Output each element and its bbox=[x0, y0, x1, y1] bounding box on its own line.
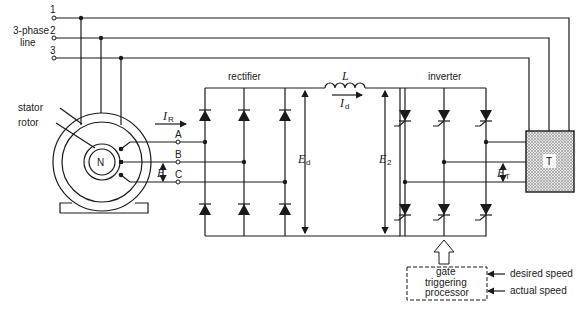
terminal-a-label: A bbox=[175, 129, 182, 140]
transformer-box: T bbox=[526, 131, 574, 192]
inductor-label: L bbox=[341, 69, 349, 83]
inverter-bridge: inverter E T bbox=[394, 71, 526, 236]
processor-label-3: processor bbox=[425, 287, 470, 298]
terminal-b-label: B bbox=[175, 149, 182, 160]
drive-diagram: 1 2 3 3-phase line N stator rotor bbox=[0, 0, 586, 320]
rectifier-label: rectifier bbox=[228, 71, 261, 82]
phase-2-label: 2 bbox=[50, 25, 56, 36]
terminal-1-icon bbox=[52, 16, 56, 20]
terminal-c-label: C bbox=[175, 169, 182, 180]
transformer-label: T bbox=[546, 156, 552, 167]
phase-1-label: 1 bbox=[50, 4, 56, 15]
stator-label: stator bbox=[18, 102, 44, 113]
up-arrow-icon bbox=[434, 240, 454, 264]
svg-text:d: d bbox=[306, 158, 310, 167]
svg-text:R: R bbox=[168, 115, 174, 124]
dc-voltage-label: E bbox=[297, 152, 306, 166]
supply-label: 3-phase bbox=[13, 25, 50, 36]
rotor-pole-label: N bbox=[97, 157, 104, 168]
actual-speed-label: actual speed bbox=[510, 285, 567, 296]
terminal-2-icon bbox=[52, 36, 56, 40]
supply-label-line: line bbox=[20, 37, 36, 48]
desired-speed-label: desired speed bbox=[510, 268, 573, 279]
processor-label-1: gate bbox=[436, 266, 456, 277]
thyristor-icon bbox=[394, 110, 492, 220]
inverter-input-voltage-label: E bbox=[378, 152, 387, 166]
phase-3-label: 3 bbox=[50, 45, 56, 56]
transformer-voltage-label: E bbox=[496, 166, 505, 180]
inductor-icon bbox=[325, 83, 365, 88]
rotor-label: rotor bbox=[18, 117, 39, 128]
terminal-3-icon bbox=[52, 56, 56, 60]
rectifier-bridge: rectifier E d bbox=[199, 71, 400, 236]
svg-text:2: 2 bbox=[387, 158, 392, 167]
motor-terminals: A B C E I R bbox=[155, 109, 186, 184]
gate-processor: gate triggering processor desired speed … bbox=[407, 240, 573, 300]
svg-text:T: T bbox=[505, 172, 510, 181]
inverter-label: inverter bbox=[428, 71, 462, 82]
svg-text:d: d bbox=[345, 102, 349, 111]
motor-voltage-label: E bbox=[156, 166, 165, 180]
